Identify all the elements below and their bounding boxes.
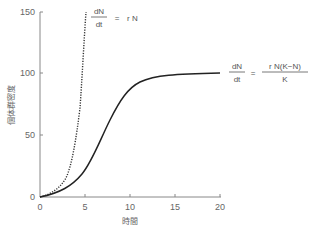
x-axis-label: 時間: [122, 217, 138, 226]
y-tick-label: 100: [20, 68, 35, 78]
exponential-equation: dN dt = r N: [91, 7, 138, 29]
y-axis-label: 個体群密度: [6, 85, 16, 125]
svg-text:=: =: [115, 14, 120, 23]
logistic-curve: [40, 73, 220, 197]
x-tick-label: 5: [82, 202, 87, 212]
y-tick-label: 150: [20, 7, 35, 17]
x-tick-label: 15: [170, 202, 180, 212]
svg-text:=: =: [251, 69, 256, 78]
chart-svg: 150 100 50 0 0 5 10 15 20 時間 個体群密度 dN dt…: [0, 0, 312, 233]
svg-text:r N: r N: [127, 14, 138, 23]
x-tick-label: 20: [215, 202, 225, 212]
x-tick-label: 0: [37, 202, 42, 212]
svg-text:dt: dt: [96, 20, 103, 29]
svg-text:dN: dN: [94, 7, 104, 16]
svg-text:dt: dt: [234, 75, 241, 84]
svg-text:dN: dN: [232, 62, 242, 71]
growth-chart: 150 100 50 0 0 5 10 15 20 時間 個体群密度 dN dt…: [0, 0, 312, 233]
y-tick-label: 50: [25, 130, 35, 140]
x-tick-label: 10: [125, 202, 135, 212]
exponential-curve: [40, 12, 86, 197]
y-tick-label: 0: [30, 192, 35, 202]
svg-text:r N(K−N): r N(K−N): [269, 62, 301, 71]
logistic-equation: dN dt = r N(K−N) K: [229, 62, 308, 84]
svg-text:K: K: [282, 75, 288, 84]
